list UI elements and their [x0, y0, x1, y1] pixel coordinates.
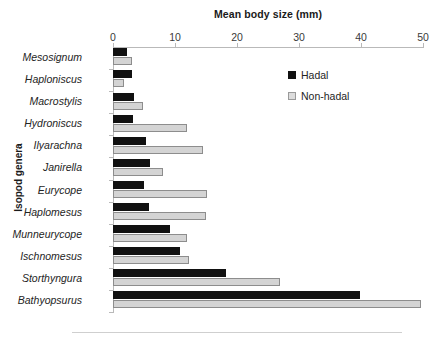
category-label: Hydroniscus: [0, 117, 82, 129]
bar-hadal: [113, 269, 226, 277]
x-tick-label: 20: [231, 31, 243, 43]
category-label: Ischnomesus: [0, 250, 82, 262]
chart-row: Haploniscus: [113, 69, 423, 91]
bar-hadal: [113, 247, 180, 255]
y-tick: [109, 312, 114, 313]
chart-row: Mesosignum: [113, 47, 423, 69]
chart-row: Janirella: [113, 157, 423, 179]
bar-non-hadal: [113, 256, 189, 264]
chart-legend: HadalNon-hadal: [288, 66, 349, 108]
category-label: Munneurycope: [0, 228, 82, 240]
x-tick: [423, 43, 424, 48]
legend-label: Hadal: [301, 69, 328, 81]
bar-non-hadal: [113, 168, 163, 176]
x-axis-title: Mean body size (mm): [113, 8, 423, 20]
category-label: Janirella: [0, 161, 82, 173]
x-tick-label: 30: [293, 31, 305, 43]
category-label: Ilyarachna: [0, 139, 82, 151]
x-tick-label: 0: [110, 31, 116, 43]
chart-row: Ischnomesus: [113, 246, 423, 268]
bar-non-hadal: [113, 79, 124, 87]
x-tick-label: 40: [355, 31, 367, 43]
bar-non-hadal: [113, 278, 280, 286]
chart-row: Storthyngura: [113, 268, 423, 290]
chart-row: Bathyopsurus: [113, 290, 423, 312]
bar-hadal: [113, 70, 132, 78]
y-axis-title: Isopod genera: [13, 118, 24, 238]
bar-hadal: [113, 48, 127, 56]
bar-hadal: [113, 203, 149, 211]
chart-row: Munneurycope: [113, 224, 423, 246]
bar-non-hadal: [113, 234, 187, 242]
chart-row: Macrostylis: [113, 91, 423, 113]
legend-item: Non-hadal: [288, 87, 349, 104]
bar-non-hadal: [113, 124, 187, 132]
category-label: Haplomesus: [0, 206, 82, 218]
bar-hadal: [113, 181, 144, 189]
bottom-divider: [72, 332, 402, 333]
category-label: Eurycope: [0, 184, 82, 196]
bar-non-hadal: [113, 102, 143, 110]
bar-non-hadal: [113, 212, 206, 220]
legend-swatch-icon: [288, 71, 296, 79]
plot-area: MesosignumHaploniscusMacrostylisHydronis…: [113, 47, 423, 312]
category-label: Mesosignum: [0, 51, 82, 63]
category-label: Storthyngura: [0, 272, 82, 284]
bar-hadal: [113, 115, 133, 123]
bar-hadal: [113, 225, 170, 233]
category-label: Bathyopsurus: [0, 294, 82, 306]
bar-chart: Mean body size (mm) Isopod genera Mesosi…: [0, 0, 447, 338]
category-label: Haploniscus: [0, 73, 82, 85]
category-label: Macrostylis: [0, 95, 82, 107]
legend-swatch-icon: [288, 92, 296, 100]
x-tick-label: 10: [169, 31, 181, 43]
bar-hadal: [113, 291, 360, 299]
chart-row: Haplomesus: [113, 202, 423, 224]
bar-hadal: [113, 159, 150, 167]
x-tick-label: 50: [417, 31, 429, 43]
bar-non-hadal: [113, 57, 132, 65]
legend-label: Non-hadal: [301, 90, 349, 102]
bar-non-hadal: [113, 190, 207, 198]
bar-hadal: [113, 137, 146, 145]
bar-non-hadal: [113, 300, 421, 308]
bar-non-hadal: [113, 146, 203, 154]
legend-item: Hadal: [288, 66, 349, 83]
bar-hadal: [113, 93, 134, 101]
chart-row: Hydroniscus: [113, 113, 423, 135]
chart-row: Ilyarachna: [113, 135, 423, 157]
chart-row: Eurycope: [113, 180, 423, 202]
